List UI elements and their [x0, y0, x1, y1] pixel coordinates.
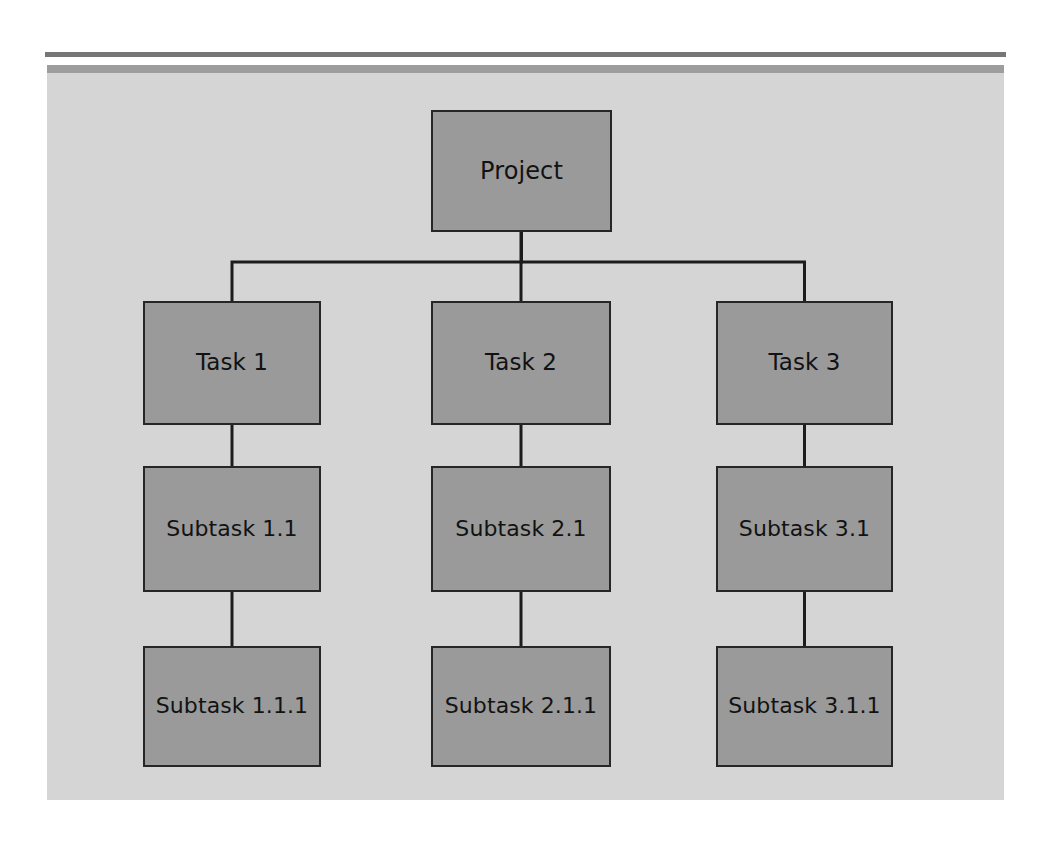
node-label-subtask2_1: Subtask 2.1: [455, 517, 586, 541]
node-label-task3: Task 3: [768, 350, 840, 375]
node-label-subtask1_1: Subtask 1.1: [166, 517, 297, 541]
node-project[interactable]: Project: [431, 110, 612, 232]
top-rule-medium: [47, 65, 1004, 73]
node-label-project: Project: [480, 158, 563, 184]
node-subtask3_1[interactable]: Subtask 3.1: [716, 466, 893, 592]
node-label-task2: Task 2: [485, 350, 557, 375]
node-label-subtask2_1_1: Subtask 2.1.1: [445, 694, 597, 718]
diagram-panel: ProjectTask 1Task 2Task 3Subtask 1.1Subt…: [47, 73, 1004, 800]
page-root: ProjectTask 1Task 2Task 3Subtask 1.1Subt…: [0, 0, 1055, 844]
connector-project-to-task1: [232, 232, 522, 301]
top-rule-dark: [45, 52, 1006, 57]
node-subtask1_1[interactable]: Subtask 1.1: [143, 466, 321, 592]
node-task2[interactable]: Task 2: [431, 301, 611, 425]
connector-project-to-task3: [522, 232, 805, 301]
node-label-subtask1_1_1: Subtask 1.1.1: [156, 694, 308, 718]
node-label-task1: Task 1: [196, 350, 268, 375]
node-subtask3_1_1[interactable]: Subtask 3.1.1: [716, 646, 893, 767]
node-subtask2_1[interactable]: Subtask 2.1: [431, 466, 611, 592]
node-label-subtask3_1_1: Subtask 3.1.1: [728, 694, 880, 718]
node-label-subtask3_1: Subtask 3.1: [739, 517, 870, 541]
node-subtask1_1_1[interactable]: Subtask 1.1.1: [143, 646, 321, 767]
node-subtask2_1_1[interactable]: Subtask 2.1.1: [431, 646, 611, 767]
node-task3[interactable]: Task 3: [716, 301, 893, 425]
node-task1[interactable]: Task 1: [143, 301, 321, 425]
